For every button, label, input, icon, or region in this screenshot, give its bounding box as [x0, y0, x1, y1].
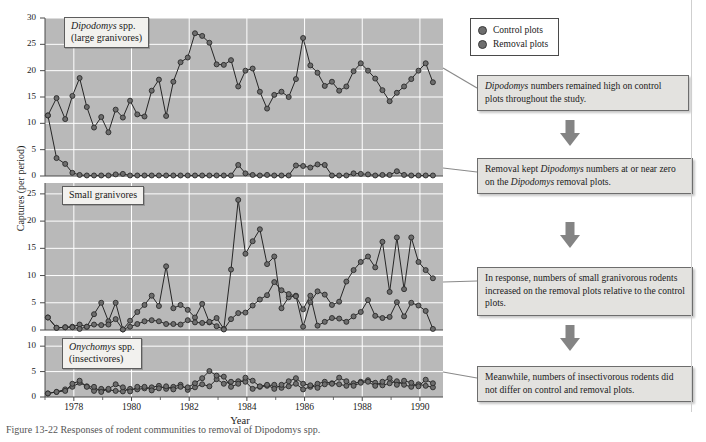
data-point-marker — [286, 173, 291, 178]
data-point-marker — [70, 325, 75, 330]
data-point-marker — [402, 84, 407, 89]
data-point-marker — [99, 389, 104, 394]
data-point-marker — [171, 387, 176, 392]
data-point-marker — [178, 173, 183, 178]
data-point-marker — [402, 172, 407, 177]
data-point-marker — [337, 316, 342, 321]
data-point-marker — [221, 62, 226, 67]
data-point-marker — [293, 163, 298, 168]
data-point-marker — [322, 83, 327, 88]
legend-label-removal: Removal plots — [493, 37, 548, 51]
data-point-marker — [250, 386, 255, 391]
data-point-marker — [358, 61, 363, 66]
data-point-marker — [156, 319, 161, 324]
data-point-marker — [214, 324, 219, 329]
data-point-marker — [171, 306, 176, 311]
data-point-marker — [214, 316, 219, 321]
data-point-marker — [257, 173, 262, 178]
data-point-marker — [366, 172, 371, 177]
data-point-marker — [92, 125, 97, 130]
data-point-marker — [329, 79, 334, 84]
data-point-marker — [380, 172, 385, 177]
x-tick-label: 1986 — [289, 402, 321, 412]
data-point-marker — [286, 292, 291, 297]
data-point-marker — [120, 115, 125, 120]
panel-label-line: Onychomys spp. — [69, 341, 135, 353]
data-point-marker — [351, 383, 356, 388]
data-point-marker — [54, 156, 59, 161]
data-point-marker — [279, 89, 284, 94]
data-point-marker — [380, 379, 385, 384]
callout-text-segment: Removal kept — [485, 164, 540, 174]
data-point-marker — [423, 173, 428, 178]
y-tick-label: 0 — [14, 170, 36, 180]
data-point-marker — [135, 384, 140, 389]
data-point-marker — [120, 385, 125, 390]
data-point-marker — [409, 77, 414, 82]
data-point-marker — [423, 377, 428, 382]
callout-leader-line — [443, 281, 477, 282]
legend-label-control: Control plots — [493, 23, 543, 37]
data-point-marker — [366, 298, 371, 303]
data-point-marker — [214, 62, 219, 67]
legend-item-control: Control plots — [478, 23, 548, 37]
data-point-marker — [54, 325, 59, 330]
data-point-marker — [171, 173, 176, 178]
data-point-marker — [423, 61, 428, 66]
data-point-marker — [128, 98, 133, 103]
data-point-marker — [207, 173, 212, 178]
figure-caption: Figure 13-22 Responses of rodent communi… — [6, 424, 696, 436]
data-point-marker — [265, 382, 270, 387]
data-point-marker — [221, 381, 226, 386]
data-point-marker — [243, 68, 248, 73]
data-point-marker — [92, 312, 97, 317]
data-point-marker — [293, 77, 298, 82]
data-point-marker — [387, 314, 392, 319]
data-point-marker — [70, 93, 75, 98]
data-point-marker — [207, 384, 212, 389]
data-point-marker — [229, 173, 234, 178]
data-point-marker — [250, 172, 255, 177]
page-rule — [691, 0, 692, 412]
x-tick-label: 1990 — [404, 402, 436, 412]
data-point-marker — [185, 385, 190, 390]
data-point-marker — [99, 115, 104, 120]
data-point-marker — [243, 310, 248, 315]
y-tick-label: 20 — [14, 65, 36, 75]
y-tick-label: 10 — [14, 340, 36, 350]
data-point-marker — [229, 317, 234, 322]
data-point-marker — [366, 254, 371, 259]
data-point-marker — [301, 381, 306, 386]
data-point-marker — [430, 276, 435, 281]
data-point-marker — [45, 315, 50, 320]
data-point-marker — [185, 307, 190, 312]
data-point-marker — [77, 326, 82, 331]
y-tick-label: 30 — [14, 12, 36, 22]
callout-leader-line — [443, 372, 477, 378]
data-point-marker — [344, 319, 349, 324]
data-point-marker — [229, 58, 234, 63]
data-point-marker — [402, 314, 407, 319]
y-tick-label: 5 — [14, 366, 36, 376]
data-point-marker — [402, 378, 407, 383]
data-point-marker — [99, 300, 104, 305]
data-point-marker — [84, 324, 89, 329]
data-point-marker — [142, 173, 147, 178]
data-point-marker — [394, 300, 399, 305]
data-point-marker — [265, 172, 270, 177]
data-point-marker — [394, 169, 399, 174]
data-point-marker — [77, 378, 82, 383]
data-point-marker — [236, 162, 241, 167]
data-point-marker — [200, 301, 205, 306]
data-point-marker — [430, 381, 435, 386]
data-point-marker — [221, 374, 226, 379]
data-point-marker — [337, 88, 342, 93]
data-point-marker — [322, 382, 327, 387]
data-point-marker — [77, 76, 82, 81]
data-point-marker — [120, 171, 125, 176]
y-tick-label: 0 — [14, 324, 36, 334]
panel-label-onychomys: Onychomys spp.(insectivores) — [62, 338, 142, 369]
data-point-marker — [92, 384, 97, 389]
data-point-marker — [63, 388, 68, 393]
data-point-marker — [192, 31, 197, 36]
